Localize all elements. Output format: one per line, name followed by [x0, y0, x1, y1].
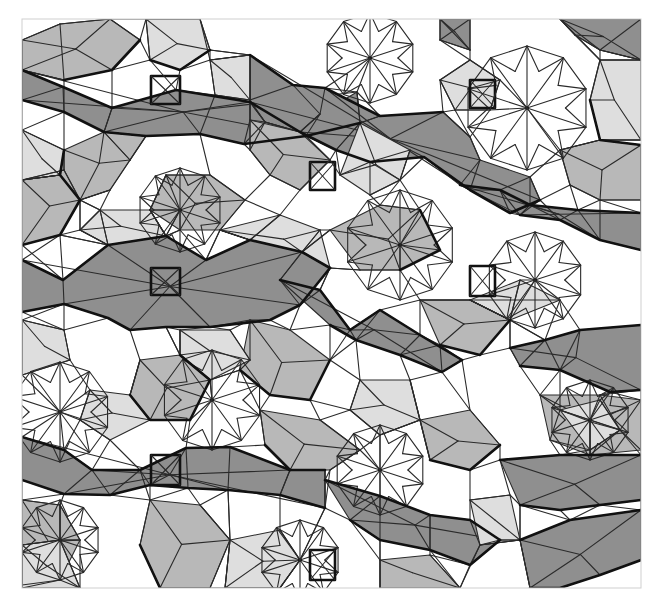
tiling-canvas — [0, 0, 660, 607]
pattern-area — [12, 13, 641, 600]
